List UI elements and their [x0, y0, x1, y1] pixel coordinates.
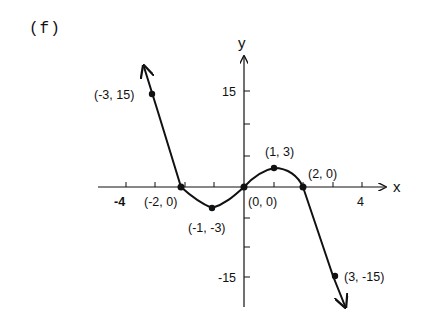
tick-label-y-15: 15 — [222, 85, 236, 99]
tick-label-x-4: 4 — [357, 195, 364, 209]
y-axis-label: y — [238, 34, 246, 51]
tick-label-y-neg15: -15 — [218, 271, 236, 285]
point-neg2-0 — [178, 184, 185, 191]
point-neg3-15 — [149, 91, 155, 97]
point-label-0-0: (0, 0) — [248, 195, 277, 209]
tick-label-x-neg4: -4 — [114, 195, 125, 209]
function-graph: x y -4 4 15 -15 (-3, 15) (-2, 0) (-1, -3… — [0, 0, 428, 325]
point-label-neg2-0: (-2, 0) — [144, 195, 177, 209]
point-3-neg15 — [332, 273, 338, 279]
point-0-0 — [241, 184, 248, 191]
point-label-neg1-neg3: (-1, -3) — [188, 221, 226, 235]
point-label-3-neg15: (3, -15) — [344, 270, 384, 284]
point-2-0 — [300, 184, 307, 191]
point-label-1-3: (1, 3) — [265, 145, 294, 159]
point-label-2-0: (2, 0) — [308, 167, 337, 181]
point-1-3 — [271, 165, 277, 171]
point-neg1-neg3 — [209, 205, 215, 211]
x-axis-label: x — [393, 178, 401, 195]
point-label-neg3-15: (-3, 15) — [94, 88, 134, 102]
